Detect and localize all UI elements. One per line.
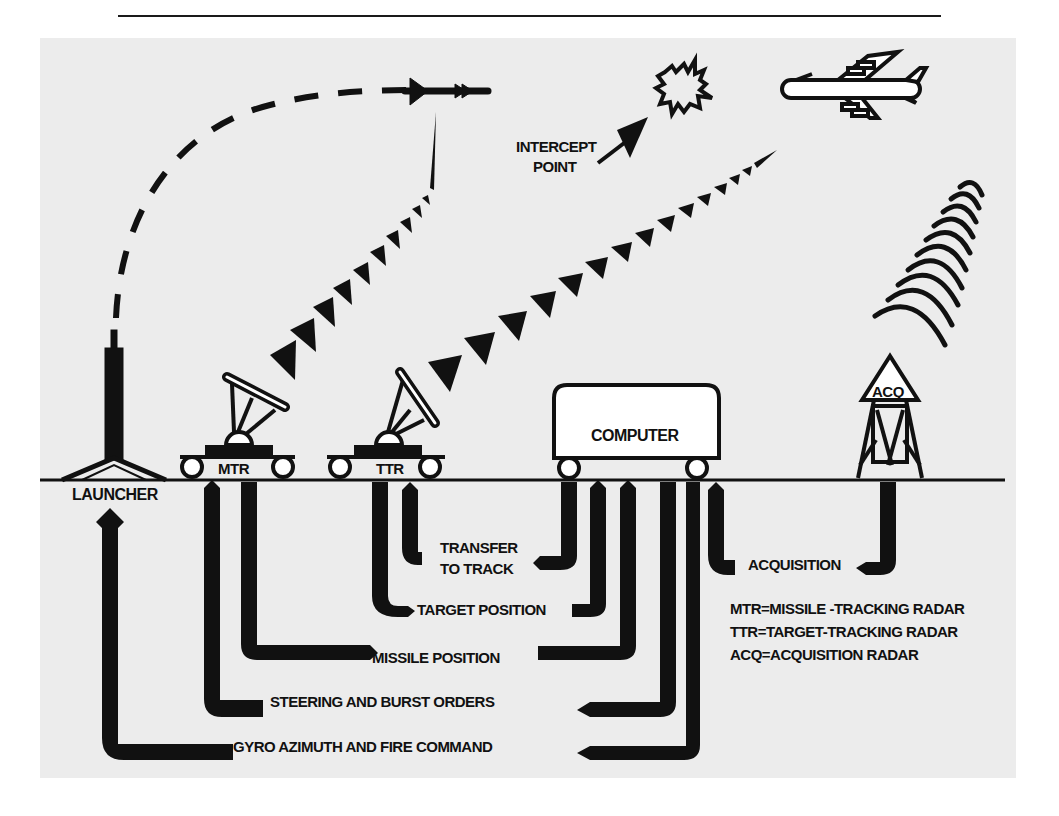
computer-label: COMPUTER bbox=[591, 427, 680, 444]
legend-item-mtr: MTR=MISSILE -TRACKING RADAR bbox=[730, 600, 965, 617]
steering-label: STEERING AND BURST ORDERS bbox=[270, 693, 495, 710]
signal-arrows bbox=[96, 480, 896, 760]
intercept-arrow bbox=[598, 117, 648, 163]
intercept-label-line2: POINT bbox=[533, 158, 577, 175]
launcher-label: LAUNCHER bbox=[72, 486, 159, 503]
launcher-icon bbox=[62, 330, 166, 480]
explosion-icon bbox=[656, 60, 712, 114]
radar-beam-icon bbox=[875, 183, 982, 346]
legend-item-ttr: TTR=TARGET-TRACKING RADAR bbox=[730, 623, 958, 640]
mtr-beam bbox=[270, 112, 436, 380]
missile-position-label: MISSILE POSITION bbox=[372, 649, 500, 666]
ttr-label: TTR bbox=[376, 460, 404, 477]
acq-radar-tower-icon bbox=[858, 356, 922, 478]
bomber-aircraft-icon bbox=[782, 52, 926, 118]
guidance-diagram: INTERCEPT POINT LAUNCHER bbox=[0, 0, 1059, 816]
target-position-label: TARGET POSITION bbox=[417, 601, 546, 618]
gyro-label: GYRO AZIMUTH AND FIRE COMMAND bbox=[233, 738, 493, 755]
intercept-label-line1: INTERCEPT bbox=[516, 138, 597, 155]
legend: MTR=MISSILE -TRACKING RADAR TTR=TARGET-T… bbox=[730, 600, 965, 663]
acquisition-label: ACQUISITION bbox=[748, 556, 841, 573]
missile-trajectory bbox=[116, 90, 415, 318]
ttr-beam bbox=[428, 150, 777, 392]
legend-item-acq: ACQ=ACQUISITION RADAR bbox=[730, 646, 919, 663]
transfer-label-line1: TRANSFER bbox=[440, 539, 518, 556]
mtr-label: MTR bbox=[218, 460, 250, 477]
missile-icon bbox=[405, 78, 488, 105]
acq-label: ACQ bbox=[872, 383, 905, 400]
transfer-label-line2: TO TRACK bbox=[440, 560, 514, 577]
